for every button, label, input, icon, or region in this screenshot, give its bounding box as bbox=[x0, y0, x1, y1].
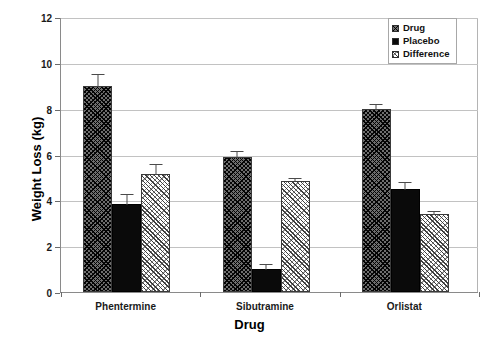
bar-chart-figure: 024681012 Weight Loss (kg) PhentermineSi… bbox=[0, 0, 499, 338]
error-bar-cap bbox=[260, 264, 273, 265]
x-category-label: Orlistat bbox=[387, 301, 422, 312]
legend-swatch-icon bbox=[392, 38, 399, 45]
gridline bbox=[61, 110, 478, 111]
x-category-label: Phentermine bbox=[95, 301, 156, 312]
error-bar-cap bbox=[370, 104, 383, 105]
error-bar-cap bbox=[120, 194, 133, 195]
x-tick-mark bbox=[340, 292, 341, 297]
y-tick-label: 0 bbox=[6, 288, 52, 299]
legend-item[interactable]: Placebo bbox=[392, 35, 453, 47]
legend-swatch-icon bbox=[392, 51, 399, 58]
legend-label: Difference bbox=[403, 49, 449, 59]
gridline bbox=[61, 156, 478, 157]
bar bbox=[391, 189, 420, 292]
y-tick-mark bbox=[55, 64, 60, 65]
legend-label: Drug bbox=[403, 23, 425, 33]
y-tick-mark bbox=[55, 247, 60, 248]
error-bar-cap bbox=[91, 74, 104, 75]
bar bbox=[362, 109, 391, 292]
legend-label: Placebo bbox=[403, 36, 439, 46]
y-tick-mark bbox=[55, 293, 60, 294]
y-tick-mark bbox=[55, 110, 60, 111]
y-tick-mark bbox=[55, 201, 60, 202]
y-tick-mark bbox=[55, 18, 60, 19]
x-category-label: Sibutramine bbox=[236, 301, 294, 312]
bar bbox=[420, 214, 449, 292]
y-tick-label: 12 bbox=[6, 13, 52, 24]
legend[interactable]: DrugPlaceboDifference bbox=[388, 18, 457, 64]
legend-swatch-icon bbox=[392, 25, 399, 32]
y-tick-mark bbox=[55, 156, 60, 157]
bar bbox=[112, 204, 141, 292]
bar bbox=[83, 86, 112, 292]
bar bbox=[281, 181, 310, 292]
legend-item[interactable]: Drug bbox=[392, 22, 453, 34]
error-bar-cap bbox=[289, 178, 302, 179]
error-bar-cap bbox=[149, 164, 162, 165]
y-axis-title: Weight Loss (kg) bbox=[29, 69, 44, 269]
y-tick-label: 10 bbox=[6, 58, 52, 69]
x-tick-mark bbox=[200, 292, 201, 297]
error-bar-cap bbox=[428, 211, 441, 212]
x-tick-mark bbox=[479, 292, 480, 297]
error-bar-cap bbox=[231, 151, 244, 152]
x-axis-title: Drug bbox=[0, 317, 499, 332]
bar bbox=[141, 174, 170, 292]
bar bbox=[223, 157, 252, 292]
legend-item[interactable]: Difference bbox=[392, 48, 453, 60]
error-bar-cap bbox=[399, 182, 412, 183]
x-tick-mark bbox=[61, 292, 62, 297]
bar bbox=[252, 269, 281, 292]
